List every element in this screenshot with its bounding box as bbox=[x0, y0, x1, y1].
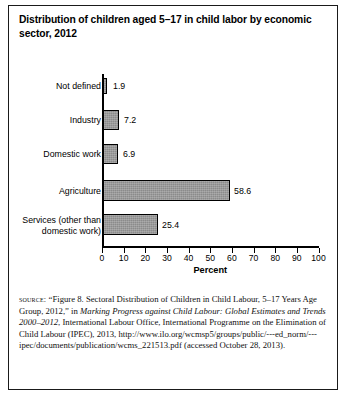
chart-plot-area: 0 10 20 30 40 50 60 70 80 90 100 Percent… bbox=[9, 62, 339, 292]
bar-value-label: 1.9 bbox=[113, 81, 125, 91]
x-axis-tick bbox=[145, 248, 146, 253]
bar-value-label: 6.9 bbox=[123, 149, 135, 159]
x-axis-tick bbox=[232, 248, 233, 253]
x-axis-tick-label: 40 bbox=[184, 253, 194, 263]
bar[interactable] bbox=[103, 78, 107, 94]
x-axis-tick bbox=[102, 248, 103, 253]
source-note-text-2: , International Labour Office, Internati… bbox=[19, 317, 326, 350]
category-label: Industry bbox=[0, 115, 101, 126]
x-axis-tick bbox=[124, 248, 125, 253]
x-axis-tick-label: 90 bbox=[292, 253, 302, 263]
x-axis-tick bbox=[210, 248, 211, 253]
x-axis-tick-label: 10 bbox=[119, 253, 129, 263]
bar-value-label: 7.2 bbox=[124, 115, 136, 125]
bar[interactable] bbox=[103, 144, 118, 164]
x-axis-tick-label: 80 bbox=[270, 253, 280, 263]
x-axis-tick-label: 20 bbox=[141, 253, 151, 263]
x-axis-tick-label: 100 bbox=[311, 253, 325, 263]
bar[interactable] bbox=[103, 180, 230, 201]
x-axis-tick bbox=[275, 248, 276, 253]
x-axis-tick bbox=[319, 248, 320, 253]
bar-value-label: 58.6 bbox=[234, 186, 251, 196]
x-axis-tick-label: 60 bbox=[227, 253, 237, 263]
x-axis-tick bbox=[254, 248, 255, 253]
x-axis-tick bbox=[167, 248, 168, 253]
x-axis-tick-label: 50 bbox=[205, 253, 215, 263]
x-axis-tick-label: 70 bbox=[249, 253, 259, 263]
x-axis-tick bbox=[297, 248, 298, 253]
bar[interactable] bbox=[103, 214, 158, 235]
x-axis-title: Percent bbox=[102, 265, 319, 275]
category-label: Agriculture bbox=[0, 186, 101, 197]
category-label: Domestic work bbox=[0, 149, 101, 160]
figure-frame: Distribution of children aged 5–17 in ch… bbox=[8, 5, 338, 390]
category-label: Services (other than domestic work) bbox=[0, 215, 101, 236]
source-note: source: “Figure 8. Sectoral Distribution… bbox=[19, 294, 331, 352]
source-note-label: source: bbox=[19, 295, 46, 304]
page-title: Distribution of children aged 5–17 in ch… bbox=[19, 13, 329, 40]
x-axis-tick-label: 0 bbox=[100, 253, 105, 263]
x-axis-tick bbox=[189, 248, 190, 253]
category-label: Not defined bbox=[0, 81, 101, 92]
bar[interactable] bbox=[103, 110, 119, 130]
x-axis-tick-label: 30 bbox=[162, 253, 172, 263]
bar-value-label: 25.4 bbox=[162, 220, 179, 230]
